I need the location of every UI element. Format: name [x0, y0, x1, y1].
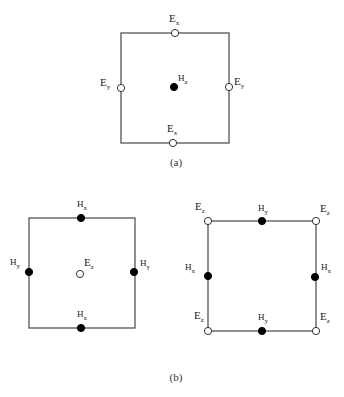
h-field-node-hy-top	[258, 217, 265, 224]
e-field-node-ez-tl	[204, 217, 211, 224]
yee-cell-diagram: ExExEyEyHz HxHxHyHyEz EzEzEzEzHyHyHxHx (…	[0, 0, 344, 397]
field-label-ez-center: Ez	[84, 256, 94, 271]
h-field-node-hx-left	[204, 272, 211, 279]
field-label-hx-left: Hx	[185, 262, 196, 275]
h-field-node-hy-right	[130, 268, 137, 275]
h-field-node-hx-top	[77, 214, 84, 221]
field-label-hy-bottom: Hy	[258, 312, 269, 325]
field-label-hy-top: Hy	[258, 203, 269, 216]
panel-a-te-cell: ExExEyEyHz	[100, 12, 245, 147]
panel-b-left-tm-cell: HxHxHyHyEz	[10, 199, 151, 332]
h-field-node-hx-right	[311, 273, 318, 280]
panel-b-right-tm-cell: EzEzEzEzHyHyHxHx	[185, 200, 332, 335]
field-label-ey-right: Ey	[234, 75, 245, 90]
e-field-node-ey-right	[225, 83, 232, 90]
e-field-node-ey-left	[117, 84, 124, 91]
caption-a: (a)	[170, 156, 183, 169]
field-label-ex-bottom: Ex	[167, 122, 178, 137]
h-field-node-hz-center	[170, 83, 177, 90]
e-field-node-ez-bl	[204, 327, 211, 334]
h-field-node-hx-bottom	[77, 324, 84, 331]
field-label-hx-right: Hx	[321, 262, 332, 275]
h-field-node-hy-left	[25, 268, 32, 275]
e-field-node-ez-center	[76, 270, 83, 277]
caption-b: (b)	[170, 371, 183, 384]
field-label-ez-tr: Ez	[320, 202, 330, 217]
e-field-node-ex-bottom	[169, 139, 176, 146]
field-label-hx-top: Hx	[77, 199, 88, 212]
field-label-ez-bl: Ez	[194, 309, 204, 324]
field-label-hy-right: Hy	[140, 258, 151, 271]
field-label-ez-br: Ez	[320, 310, 330, 325]
e-field-node-ez-tr	[312, 217, 319, 224]
field-label-hy-left: Hy	[10, 257, 21, 270]
field-label-ex-top: Ex	[169, 12, 180, 27]
h-field-node-hy-bottom	[258, 327, 265, 334]
field-label-hz-center: Hz	[178, 73, 188, 86]
field-label-ez-tl: Ez	[195, 200, 205, 215]
e-field-node-ex-top	[171, 29, 178, 36]
e-field-node-ez-br	[312, 327, 319, 334]
field-label-ey-left: Ey	[100, 76, 111, 91]
field-label-hx-bottom: Hx	[77, 309, 88, 322]
